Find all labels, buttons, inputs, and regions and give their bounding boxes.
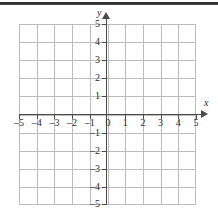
y-tick-label: –4 <box>84 182 100 192</box>
origin-label: 0 <box>100 118 116 128</box>
y-tick-label: –2 <box>84 146 100 156</box>
x-tick-label: –4 <box>29 118 45 128</box>
scan-artifact-band <box>0 2 218 5</box>
gridline-horizontal <box>19 169 196 170</box>
x-tick-label: 4 <box>170 118 186 128</box>
y-tick-label: –1 <box>84 128 100 138</box>
x-tick-label: –3 <box>46 118 62 128</box>
y-axis-line <box>106 18 107 205</box>
y-axis-tick <box>102 96 106 97</box>
y-axis-tick <box>102 204 106 205</box>
gridline-horizontal <box>19 42 196 43</box>
gridline-horizontal <box>19 96 196 97</box>
gridline-horizontal <box>19 151 196 152</box>
y-axis-tick <box>102 151 106 152</box>
x-tick-label: –2 <box>64 118 80 128</box>
gridline-horizontal <box>19 187 196 188</box>
y-axis-tick <box>102 60 106 61</box>
y-tick-label: –3 <box>84 164 100 174</box>
gridline-horizontal <box>19 78 196 79</box>
x-tick-label: 3 <box>153 118 169 128</box>
y-axis-tick <box>102 78 106 79</box>
y-axis-tick <box>102 42 106 43</box>
x-axis-label: x <box>204 98 208 108</box>
y-axis-label: y <box>97 8 101 18</box>
x-axis-arrow-icon <box>201 110 208 118</box>
y-tick-label: 5 <box>84 19 100 29</box>
gridline-horizontal <box>19 24 196 25</box>
y-axis-tick <box>102 187 106 188</box>
x-tick-label: 5 <box>188 118 204 128</box>
y-axis-arrow-icon <box>102 12 110 19</box>
coordinate-plane: –5 –4 –3 –2 –1 0 1 2 3 4 5 5 4 3 2 1 –1 … <box>0 0 218 214</box>
y-tick-label: –5 <box>84 199 100 209</box>
x-tick-label: 1 <box>117 118 133 128</box>
y-tick-label: 4 <box>84 37 100 47</box>
y-tick-label: 1 <box>84 91 100 101</box>
x-axis-line <box>19 114 203 115</box>
y-axis-tick <box>102 24 106 25</box>
x-tick-label: –5 <box>11 118 27 128</box>
y-tick-label: 2 <box>84 73 100 83</box>
y-tick-label: 3 <box>84 55 100 65</box>
gridline-horizontal <box>19 60 196 61</box>
y-axis-tick <box>102 169 106 170</box>
x-tick-label: 2 <box>135 118 151 128</box>
gridline-horizontal <box>19 133 196 134</box>
y-axis-tick <box>102 133 106 134</box>
gridline-horizontal <box>19 204 196 205</box>
